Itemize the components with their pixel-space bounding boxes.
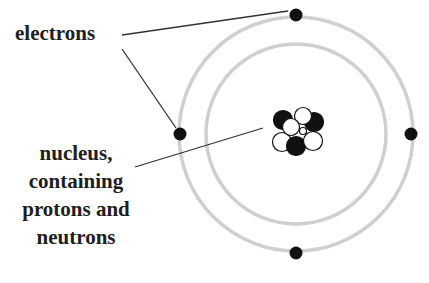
proton <box>287 137 306 156</box>
nucleus-label-line-3: protons and <box>22 197 130 221</box>
electron-top <box>290 9 303 22</box>
leader-line-electron-left <box>122 49 176 128</box>
nucleus-label-line-4: neutrons <box>37 225 116 249</box>
neutron <box>304 132 323 151</box>
atom-diagram: electrons nucleus, containing protons an… <box>0 0 429 283</box>
electron-bottom <box>290 247 303 260</box>
electron-left <box>174 128 187 141</box>
nucleus-label-line-2: containing <box>29 169 124 193</box>
neutron-small <box>300 128 307 135</box>
nucleus-label-line-1: nucleus, <box>40 141 113 165</box>
leader-line-nucleus <box>135 128 263 167</box>
electrons-label: electrons <box>15 21 95 45</box>
nucleus <box>273 108 324 156</box>
neutron <box>283 119 300 136</box>
electron-right <box>405 128 418 141</box>
